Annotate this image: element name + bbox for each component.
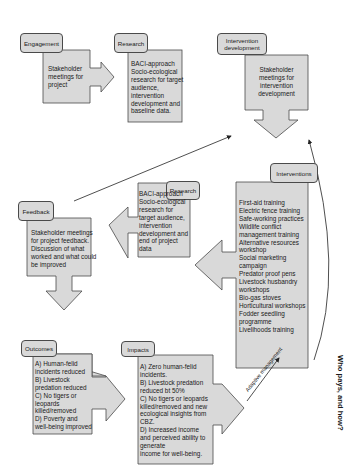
research-end-text: BACI-approach Socio-ecological research … xyxy=(139,190,191,253)
interventions-label: Interventions xyxy=(270,163,318,183)
impacts-label: Impacts xyxy=(121,341,155,357)
interventions-text: First-aid training Electric fence traini… xyxy=(239,199,309,333)
label-line: development xyxy=(224,44,259,51)
feedback-label: Feedback xyxy=(18,201,54,221)
impacts-text: A) Zero human-felid incidents. B) Livest… xyxy=(140,363,214,458)
feedback-text: Stakeholder meetings for project feedbac… xyxy=(31,229,93,269)
outcomes-text: A) Human-felid incidents reduced B) Live… xyxy=(35,360,93,431)
research-baseline-text: BACI-approach Socio-ecological research … xyxy=(131,60,183,115)
outcomes-label: Outcomes xyxy=(21,340,57,357)
engagement-label: Engagement xyxy=(20,33,63,53)
who-pays-label: Who pays, and how? xyxy=(336,355,345,431)
label-line: Intervention xyxy=(226,37,258,44)
intervention-development-label: Intervention development xyxy=(217,33,267,55)
engagement-text: Stakeholder meetings for project xyxy=(48,65,92,89)
intervention-development-text: Stakeholder meetings for intervention de… xyxy=(245,66,308,98)
research-baseline-label: Research xyxy=(114,33,148,53)
